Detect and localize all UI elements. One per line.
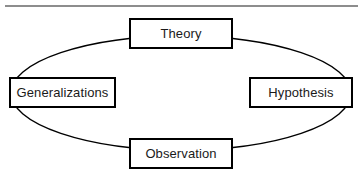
node-observation-label: Observation (145, 147, 216, 160)
node-generalizations-label: Generalizations (17, 86, 109, 99)
research-cycle-figure: Theory Generalizations Hypothesis Observ… (0, 0, 361, 179)
node-hypothesis-label: Hypothesis (268, 86, 333, 99)
node-generalizations[interactable]: Generalizations (9, 77, 116, 108)
node-hypothesis[interactable]: Hypothesis (249, 77, 353, 108)
node-theory[interactable]: Theory (129, 18, 233, 49)
node-theory-label: Theory (160, 27, 201, 40)
node-observation[interactable]: Observation (129, 138, 233, 169)
